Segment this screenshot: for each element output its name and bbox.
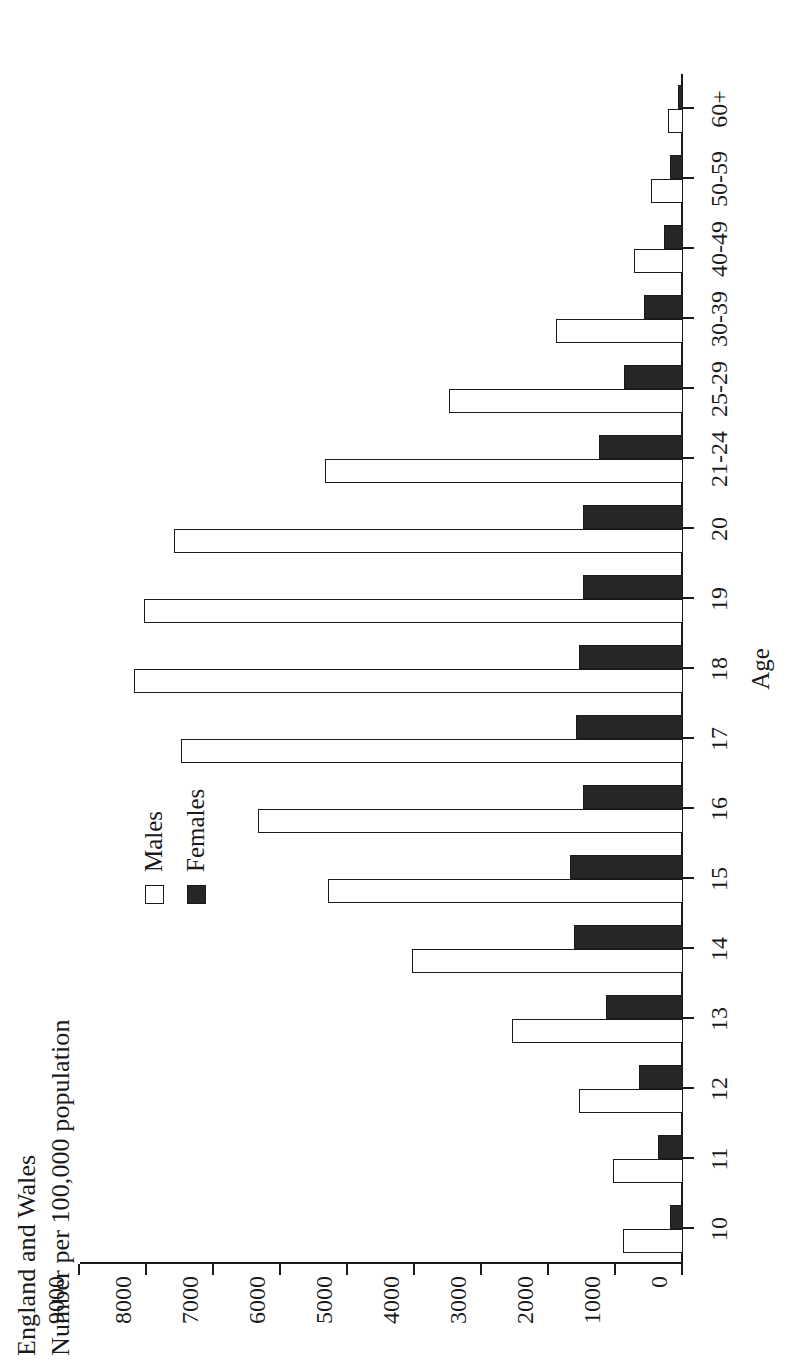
bar-females-40-49 (664, 225, 683, 249)
bar-females-13 (606, 995, 683, 1019)
bar-females-30-39 (644, 295, 683, 319)
value-tick (78, 1264, 80, 1275)
category-label-30-39: 30-39 (707, 291, 731, 347)
bar-males-13 (512, 1019, 683, 1043)
category-tick (683, 1087, 694, 1089)
category-label-12: 12 (707, 1077, 731, 1101)
bar-females-60+ (678, 85, 683, 109)
category-tick (683, 1157, 694, 1159)
category-tick (683, 667, 694, 669)
xaxis-title: Age (747, 74, 775, 1264)
category-tick (683, 107, 694, 109)
bar-females-14 (574, 925, 683, 949)
bar-females-12 (639, 1065, 683, 1089)
category-tick (683, 877, 694, 879)
value-tick-label: 3000 (446, 1276, 470, 1324)
bar-males-40-49 (634, 249, 683, 273)
plot-area: 0100020003000400050006000700080009000 10… (80, 74, 683, 1264)
category-label-40-49: 40-49 (707, 221, 731, 277)
value-tick-label: 2000 (513, 1276, 537, 1324)
chart-figure: England and Wales Number per 100,000 pop… (0, 0, 791, 1364)
bar-males-11 (613, 1159, 683, 1183)
value-tick-label: 8000 (111, 1276, 135, 1324)
value-tick-label: 9000 (44, 1276, 68, 1324)
bar-males-14 (412, 949, 683, 973)
bar-males-21-24 (325, 459, 683, 483)
category-tick (683, 177, 694, 179)
value-tick (279, 1264, 281, 1275)
category-tick (683, 387, 694, 389)
bar-females-15 (570, 855, 683, 879)
category-label-10: 10 (707, 1217, 731, 1241)
category-tick (683, 247, 694, 249)
category-tick (683, 807, 694, 809)
category-label-25-29: 25-29 (707, 361, 731, 417)
title-line-1: England and Wales (10, 1019, 44, 1356)
category-tick (683, 317, 694, 319)
category-label-13: 13 (707, 1007, 731, 1031)
bar-females-50-59 (670, 155, 683, 179)
value-tick (614, 1264, 616, 1275)
value-axis-line (80, 1262, 683, 1264)
bar-males-50-59 (651, 179, 683, 203)
value-tick-label: 4000 (379, 1276, 403, 1324)
category-tick (683, 1227, 694, 1229)
value-tick (681, 1264, 683, 1275)
bar-males-12 (579, 1089, 683, 1113)
category-label-19: 19 (707, 587, 731, 611)
category-tick (683, 597, 694, 599)
category-label-16: 16 (707, 797, 731, 821)
value-tick-label: 5000 (312, 1276, 336, 1324)
bar-males-20 (174, 529, 683, 553)
bar-females-21-24 (599, 435, 683, 459)
category-label-21-24: 21-24 (707, 431, 731, 487)
value-tick (212, 1264, 214, 1275)
bar-females-20 (583, 505, 684, 529)
value-tick-label: 7000 (178, 1276, 202, 1324)
bar-females-18 (579, 645, 683, 669)
bar-females-10 (670, 1205, 683, 1229)
bar-females-11 (658, 1135, 683, 1159)
category-label-60+: 60+ (707, 90, 731, 128)
rotated-figure-canvas: England and Wales Number per 100,000 pop… (0, 0, 791, 1364)
category-tick (683, 1017, 694, 1019)
category-tick (683, 527, 694, 529)
category-label-20: 20 (707, 517, 731, 541)
value-tick (346, 1264, 348, 1275)
value-tick (413, 1264, 415, 1275)
bar-males-15 (328, 879, 683, 903)
bar-males-30-39 (556, 319, 683, 343)
bar-males-10 (623, 1229, 683, 1253)
value-tick (547, 1264, 549, 1275)
bar-females-25-29 (624, 365, 683, 389)
category-tick (683, 457, 694, 459)
value-tick (480, 1264, 482, 1275)
bar-males-19 (144, 599, 683, 623)
bar-males-18 (134, 669, 683, 693)
value-tick-label: 0 (647, 1276, 671, 1288)
category-tick (683, 947, 694, 949)
value-tick-label: 1000 (580, 1276, 604, 1324)
bar-males-16 (258, 809, 683, 833)
category-label-50-59: 50-59 (707, 151, 731, 207)
bar-females-17 (576, 715, 683, 739)
bar-males-25-29 (449, 389, 684, 413)
category-label-11: 11 (707, 1147, 731, 1170)
category-label-17: 17 (707, 727, 731, 751)
bar-males-17 (181, 739, 684, 763)
bar-males-60+ (668, 109, 683, 133)
bar-females-19 (583, 575, 684, 599)
category-tick (683, 737, 694, 739)
category-label-15: 15 (707, 867, 731, 891)
bar-females-16 (583, 785, 684, 809)
category-label-18: 18 (707, 657, 731, 681)
category-label-14: 14 (707, 937, 731, 961)
value-tick-label: 6000 (245, 1276, 269, 1324)
value-tick (145, 1264, 147, 1275)
